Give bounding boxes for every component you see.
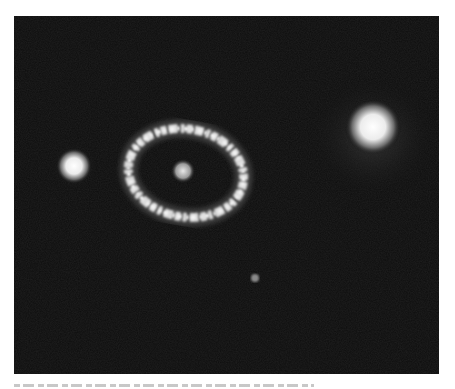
nebula-image — [14, 16, 439, 374]
left-star — [56, 148, 92, 184]
ring-core — [171, 159, 195, 183]
figure-caption — [14, 382, 439, 389]
faint-dot — [251, 274, 259, 282]
right-star — [345, 99, 401, 155]
astronomy-photo — [14, 16, 439, 374]
caption-clipped-text — [14, 384, 314, 387]
page — [0, 0, 455, 389]
